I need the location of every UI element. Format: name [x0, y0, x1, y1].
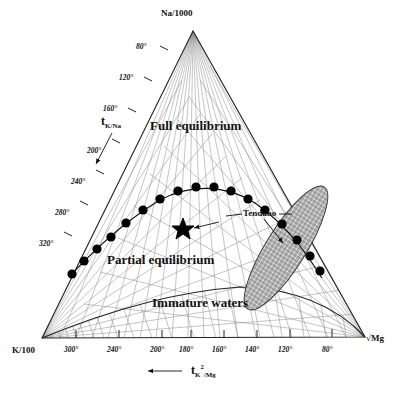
bottom-tick-120: 120°: [278, 345, 292, 354]
data-point: [209, 182, 218, 191]
data-point: [305, 251, 314, 260]
data-point: [292, 235, 301, 244]
data-point: [121, 218, 130, 227]
bottom-tick-80: 80°: [322, 345, 333, 354]
left-tick-280: 280°: [55, 208, 69, 217]
left-tick-320: 320°: [39, 239, 53, 248]
data-point: [243, 194, 252, 203]
field-label-partial-equilibrium: Partial equilibrium: [107, 252, 214, 268]
ternary-diagram-svg: [0, 0, 399, 395]
left-tick-80: 80°: [136, 42, 147, 51]
bottom-tick-300: 300°: [64, 345, 78, 354]
apex-label-na: Na/1000: [161, 8, 193, 18]
bottom-axis-title-sup: 2: [200, 363, 203, 370]
data-point: [67, 269, 76, 278]
corner-label-mg: √Mg: [366, 333, 384, 343]
tendaho-annotation-label: Tendaho: [243, 208, 276, 218]
data-point: [79, 256, 88, 265]
tendaho-leader-to-star: [194, 222, 219, 228]
bottom-tick-160: 160°: [212, 345, 226, 354]
left-axis-title-sub: K/Na: [105, 122, 121, 130]
bottom-axis-title: tK2/Mg: [191, 363, 216, 379]
data-point: [277, 219, 286, 228]
bottom-tick-200: 200°: [150, 345, 164, 354]
data-point: [226, 186, 235, 195]
data-point: [138, 205, 147, 214]
left-tick-160: 160°: [103, 104, 117, 113]
field-label-immature-waters: Immature waters: [152, 295, 248, 311]
data-point: [92, 244, 101, 253]
left-axis-ticks: [64, 46, 168, 236]
data-point: [173, 186, 182, 195]
bottom-tick-240: 240°: [107, 345, 121, 354]
left-tick-120: 120°: [119, 73, 133, 82]
data-point: [191, 182, 200, 191]
giggenbach-ternary-figure: Na/1000 K/100 √Mg 80° 120° 160° 200° 240…: [0, 0, 399, 395]
tendaho-star-marker: [172, 218, 194, 239]
bottom-tick-140: 140°: [245, 345, 259, 354]
corner-label-k: K/100: [12, 345, 35, 355]
data-point: [155, 194, 164, 203]
left-tick-240: 240°: [71, 177, 85, 186]
bottom-tick-180: 180°: [179, 345, 193, 354]
tendaho-label-rule-left: [226, 214, 242, 216]
left-tick-200: 200°: [87, 146, 101, 155]
data-point: [315, 266, 324, 275]
left-axis-title: tK/Na: [101, 114, 121, 130]
data-point: [106, 232, 115, 241]
bottom-axis-title-sub-k: K: [195, 371, 200, 379]
field-label-full-equilibrium: Full equilibrium: [150, 118, 241, 134]
bottom-axis-title-sub-mg: /Mg: [204, 371, 216, 379]
grid-lines-from-na-apex: [60, 31, 346, 338]
ternary-triangle-outline: [42, 31, 365, 338]
